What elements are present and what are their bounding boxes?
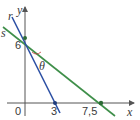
y-axis-label: y: [16, 3, 23, 17]
origin-label: 0: [15, 105, 21, 117]
x-tick-7-5: 7,5: [82, 105, 97, 117]
y-tick-6: 6: [15, 39, 21, 51]
point-intercept-y: [23, 36, 27, 40]
line-r-label: r: [8, 9, 13, 23]
line-r: [12, 17, 60, 113]
line-s-label: s: [1, 26, 6, 40]
x-tick-3: 3: [51, 105, 57, 117]
angle-theta-label: θ: [39, 59, 45, 73]
coordinate-diagram: y x r s 0 6 3 7,5 θ: [0, 0, 140, 120]
x-axis-label: x: [126, 105, 133, 119]
point-s-x-intercept: [99, 101, 103, 105]
